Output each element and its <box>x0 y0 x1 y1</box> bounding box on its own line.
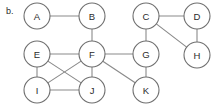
node-circle-h[interactable] <box>184 42 210 68</box>
node-circle-i[interactable] <box>24 77 50 103</box>
node-circle-j[interactable] <box>79 77 105 103</box>
graph-edge-c-h <box>156 24 186 47</box>
graph-node-k[interactable]: K <box>133 77 159 103</box>
graph-node-d[interactable]: D <box>184 3 210 29</box>
graph-node-c[interactable]: C <box>133 3 159 29</box>
graph-node-b[interactable]: B <box>79 3 105 29</box>
node-circle-d[interactable] <box>184 3 210 29</box>
node-circle-f[interactable] <box>79 41 105 67</box>
node-circle-k[interactable] <box>133 77 159 103</box>
graph-node-f[interactable]: F <box>79 41 105 67</box>
node-circle-g[interactable] <box>133 41 159 67</box>
graph-node-g[interactable]: G <box>133 41 159 67</box>
node-circle-a[interactable] <box>24 3 50 29</box>
graph-node-j[interactable]: J <box>79 77 105 103</box>
edge-layer <box>37 16 197 90</box>
graph-node-h[interactable]: H <box>184 42 210 68</box>
node-layer: ABCDEFGHIJK <box>24 3 210 103</box>
graph-node-a[interactable]: A <box>24 3 50 29</box>
panel-label: b. <box>6 6 14 16</box>
graph-diagram-canvas: ABCDEFGHIJK b. <box>0 0 211 105</box>
graph-figure-panel: ABCDEFGHIJK b. <box>0 0 211 105</box>
graph-node-i[interactable]: I <box>24 77 50 103</box>
node-circle-c[interactable] <box>133 3 159 29</box>
node-circle-e[interactable] <box>24 41 50 67</box>
node-circle-b[interactable] <box>79 3 105 29</box>
graph-edge-f-k <box>103 61 135 83</box>
graph-node-e[interactable]: E <box>24 41 50 67</box>
